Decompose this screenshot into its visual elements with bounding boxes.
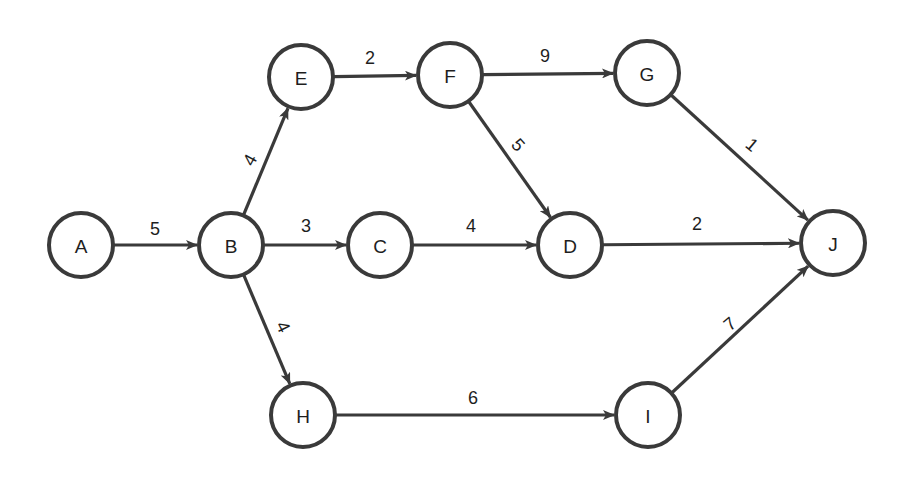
edge-arrow bbox=[469, 102, 550, 217]
node-label: A bbox=[75, 236, 88, 257]
edge-b-e: 4 bbox=[239, 108, 288, 214]
edge-weight-label: 2 bbox=[365, 48, 375, 68]
node-label: E bbox=[295, 68, 308, 89]
node-label: B bbox=[225, 236, 238, 257]
edge-f-g: 9 bbox=[483, 46, 613, 75]
edge-weight-label: 6 bbox=[468, 388, 478, 408]
edge-e-f: 2 bbox=[334, 48, 416, 77]
node-label: D bbox=[563, 236, 577, 257]
edge-arrow bbox=[483, 73, 613, 74]
node-g: G bbox=[615, 41, 679, 105]
node-h: H bbox=[271, 383, 335, 447]
edge-weight-label: 4 bbox=[466, 216, 476, 236]
node-f: F bbox=[418, 43, 482, 107]
edge-arrow bbox=[672, 266, 808, 392]
node-e: E bbox=[269, 45, 333, 109]
edge-weight-label: 5 bbox=[507, 135, 529, 156]
edge-i-j: 7 bbox=[672, 266, 808, 392]
edge-weight-label: 1 bbox=[742, 134, 763, 156]
edge-h-i: 6 bbox=[336, 388, 614, 415]
edge-b-c: 3 bbox=[264, 216, 346, 245]
edge-g-j: 1 bbox=[671, 95, 808, 220]
node-i: I bbox=[616, 383, 680, 447]
node-a: A bbox=[49, 213, 113, 277]
edge-weight-label: 9 bbox=[540, 46, 550, 66]
edge-weight-label: 2 bbox=[692, 214, 702, 234]
edge-d-j: 2 bbox=[603, 214, 799, 245]
edge-c-d: 4 bbox=[413, 216, 536, 245]
edge-f-d: 5 bbox=[469, 102, 550, 217]
node-label: G bbox=[640, 64, 655, 85]
node-label: J bbox=[828, 234, 838, 255]
node-label: H bbox=[296, 406, 310, 427]
node-label: I bbox=[645, 406, 650, 427]
node-b: B bbox=[199, 213, 263, 277]
edge-arrow bbox=[671, 95, 808, 220]
edge-weight-label: 4 bbox=[272, 318, 294, 336]
network-diagram: 543429541267 ABCDEFGHIJ bbox=[0, 0, 904, 480]
edge-weight-label: 3 bbox=[301, 216, 311, 236]
edge-weight-label: 5 bbox=[150, 219, 160, 239]
node-c: C bbox=[348, 213, 412, 277]
node-d: D bbox=[538, 213, 602, 277]
edge-arrow bbox=[603, 243, 799, 244]
node-label: F bbox=[444, 66, 456, 87]
edge-weight-label: 4 bbox=[239, 151, 261, 169]
node-label: C bbox=[373, 236, 387, 257]
edge-arrow bbox=[334, 75, 416, 76]
edge-b-h: 4 bbox=[244, 275, 294, 383]
edge-a-b: 5 bbox=[114, 219, 197, 245]
node-j: J bbox=[801, 211, 865, 275]
